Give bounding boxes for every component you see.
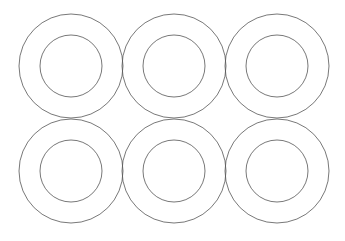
inner-circle [246, 35, 308, 97]
outer-circle [225, 14, 329, 118]
inner-circle [40, 140, 102, 202]
inner-circle [143, 35, 205, 97]
outer-circle [122, 119, 226, 223]
ring-pair [122, 14, 226, 118]
ring-pair [225, 14, 329, 118]
outer-circle [122, 14, 226, 118]
concentric-rings-diagram [0, 0, 345, 241]
ring-pair [122, 119, 226, 223]
inner-circle [40, 35, 102, 97]
inner-circle [143, 140, 205, 202]
inner-circle [246, 140, 308, 202]
outer-circle [225, 119, 329, 223]
outer-circle [19, 14, 123, 118]
outer-circle [19, 119, 123, 223]
ring-pair [19, 14, 123, 118]
ring-pair [19, 119, 123, 223]
ring-pair [225, 119, 329, 223]
